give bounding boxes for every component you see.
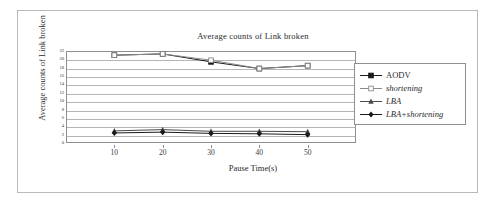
series-layer — [66, 51, 356, 143]
x-tick-label: 20 — [151, 148, 175, 157]
y-tick-label: 18 — [59, 66, 64, 71]
legend-item-shortening[interactable]: shortening — [359, 81, 462, 94]
y-tick-label: 20 — [59, 57, 64, 62]
y-tick-label: 4 — [62, 124, 64, 129]
x-tick-label: 50 — [296, 148, 320, 157]
filled-square-marker — [369, 73, 374, 78]
x-tick-label: 10 — [102, 148, 126, 157]
open-square-marker — [257, 66, 262, 71]
y-tick-label: 22 — [59, 49, 64, 54]
legend-marker — [359, 68, 383, 81]
legend: AODVshorteningLBALBA+shortening — [354, 63, 466, 125]
legend-marker — [359, 94, 383, 107]
x-tick-label: 30 — [199, 148, 223, 157]
open-square-marker — [160, 52, 165, 57]
legend-label: shortening — [383, 83, 422, 93]
legend-item-lba-shortening[interactable]: LBA+shortening — [359, 107, 462, 120]
chart-title: Average counts of Link broken — [138, 31, 368, 41]
y-tick-label: 0 — [62, 141, 64, 146]
x-axis-tick-labels: 1020304050 — [66, 145, 356, 159]
y-tick-label: 6 — [62, 116, 64, 121]
y-tick-label: 14 — [59, 82, 64, 87]
legend-label: LBA+shortening — [383, 109, 443, 119]
figure-frame: Average counts of Link broken Average co… — [17, 10, 478, 193]
legend-item-aodv[interactable]: AODV — [359, 68, 462, 81]
y-tick-label: 8 — [62, 108, 64, 113]
legend-marker — [359, 107, 383, 120]
series-shortening — [112, 52, 310, 71]
y-tick-label: 10 — [59, 99, 64, 104]
legend-label: AODV — [383, 70, 411, 80]
open-square-marker — [209, 58, 214, 63]
legend-label: LBA — [383, 96, 401, 106]
x-axis-title: Pause Time(s) — [138, 163, 368, 173]
y-tick-label: 12 — [59, 91, 64, 96]
open-square-marker — [369, 86, 374, 91]
legend-marker — [359, 81, 383, 94]
y-tick-label: 2 — [62, 133, 64, 138]
y-axis-tick-labels: 2220181614121086420 — [36, 47, 64, 147]
x-tick-label: 40 — [247, 148, 271, 157]
open-square-marker — [305, 63, 310, 68]
legend-item-lba[interactable]: LBA — [359, 94, 462, 107]
open-square-marker — [112, 53, 117, 58]
y-tick-label: 16 — [59, 74, 64, 79]
filled-diamond-marker — [368, 112, 373, 118]
